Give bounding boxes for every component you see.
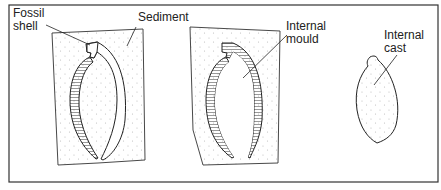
diagram-canvas	[0, 0, 441, 190]
label-sediment: Sediment	[138, 11, 189, 24]
label-internal-cast: Internal cast	[384, 29, 424, 55]
internal-cast-shape	[356, 56, 398, 143]
panel-3	[356, 55, 398, 143]
panel-1	[46, 25, 145, 165]
label-fossil-shell: Fossil shell	[13, 7, 44, 33]
panel-2	[190, 27, 287, 165]
label-internal-mould: Internal mould	[286, 20, 326, 46]
